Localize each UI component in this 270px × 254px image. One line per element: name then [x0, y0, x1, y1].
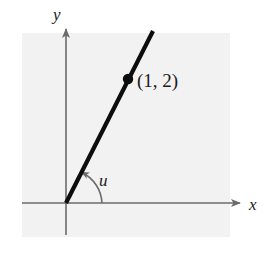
figure-container: (1, 2) u y x	[0, 0, 270, 254]
y-axis-label: y	[51, 5, 61, 24]
angle-label: u	[99, 171, 108, 190]
x-axis-label: x	[248, 195, 257, 214]
point-label: (1, 2)	[137, 70, 178, 92]
plot-background-panel	[22, 33, 230, 237]
coordinate-plane-figure: (1, 2) u y x	[0, 0, 270, 254]
point-marker	[123, 74, 133, 84]
